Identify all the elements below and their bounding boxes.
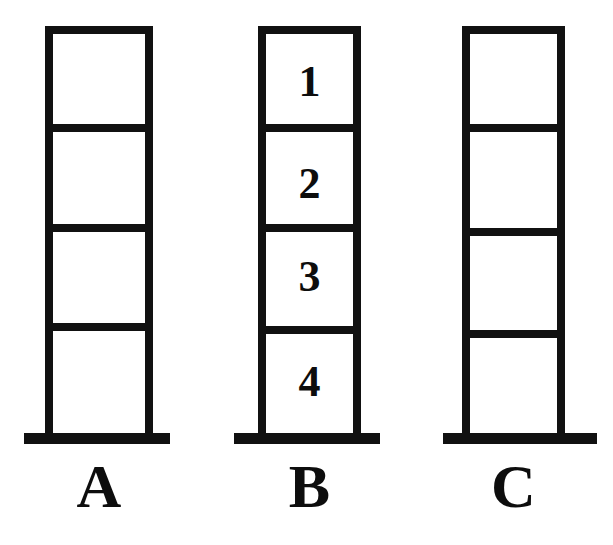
stack-c-base-bar xyxy=(443,433,597,444)
stack-b-block-number-3: 3 xyxy=(258,255,361,299)
stack-b-block-number-1: 1 xyxy=(258,60,361,104)
stack-a-divider-2 xyxy=(45,224,153,232)
stack-b-block-number-2: 2 xyxy=(258,162,361,206)
stack-a-divider-3 xyxy=(45,323,153,331)
stack-c-divider-1 xyxy=(462,124,565,132)
stack-a-divider-1 xyxy=(45,124,153,132)
stack-c-label: C xyxy=(462,455,565,517)
stack-a-base-bar xyxy=(24,433,170,444)
stack-b-divider-3 xyxy=(258,326,361,334)
stack-c-divider-3 xyxy=(462,330,565,338)
stack-b-block-number-4: 4 xyxy=(258,360,361,404)
block-stack-diagram: A 1 2 3 4 B C xyxy=(0,0,613,545)
stack-b-label: B xyxy=(258,455,361,517)
stack-b-divider-2 xyxy=(258,224,361,232)
stack-c-divider-2 xyxy=(462,228,565,236)
stack-a-label: A xyxy=(45,455,153,517)
stack-b-base-bar xyxy=(234,433,380,444)
stack-b-divider-1 xyxy=(258,124,361,132)
